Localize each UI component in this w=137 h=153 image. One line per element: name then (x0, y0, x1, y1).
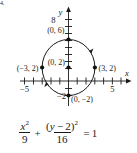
term2-minus-sign: − (57, 120, 63, 132)
term1-denominator: 9 (19, 132, 31, 145)
curve-direction-arrow-upper-icon (89, 49, 93, 54)
y-axis-label: y (58, 7, 63, 17)
point-label-0-neg2: (0, −2) (71, 95, 93, 104)
equation-plus-operator: + (33, 127, 41, 139)
y-axis-arrow-icon (66, 7, 71, 13)
x-tick-label-neg5: −5 (20, 84, 29, 94)
x-tick-label-pos5: 5 (110, 84, 114, 94)
equation-caption: x2 9 + (y − 2)2 16 = 1 (0, 118, 137, 153)
point-label-neg3-2: (−3, 2) (17, 64, 39, 73)
term2-denominator: 16 (54, 132, 71, 145)
ellipse-equation: x2 9 + (y − 2)2 16 = 1 (16, 120, 98, 145)
point-label-3-2: (3, 2) (99, 64, 117, 73)
point-right-3-2 (93, 65, 97, 69)
term2-numerator: (y − 2)2 (43, 120, 81, 132)
term2-numerator-variable: y (50, 120, 55, 132)
y-tick-label-8: 8 (51, 15, 55, 25)
point-left-neg3-2 (40, 65, 44, 69)
point-top-0-6 (66, 37, 70, 41)
coordinate-plot: y x 8 −2 −5 5 (0, 6) (0, 2) (−3, 2) (3, … (0, 2, 137, 118)
equation-term-1: x2 9 (18, 120, 32, 145)
term2-numerator-exponent: 2 (74, 119, 78, 127)
term1-numerator: x2 (18, 120, 32, 132)
equation-equals-sign: = (82, 127, 90, 139)
equation-right-hand-side: 1 (91, 127, 99, 139)
x-axis-label: x (124, 68, 129, 78)
equation-term-2: (y − 2)2 16 (43, 120, 81, 145)
curve-direction-arrow-lower-icon (44, 82, 48, 87)
x-axis-arrow-icon (126, 79, 132, 84)
point-label-0-6: (0, 6) (47, 26, 65, 35)
point-label-0-2: (0, 2) (48, 58, 66, 67)
y-tick-label-neg2: −2 (57, 91, 66, 101)
point-center-0-2 (66, 65, 70, 69)
term1-numerator-exponent: 2 (25, 119, 29, 127)
ellipse-figure: 4. (0, 0, 137, 153)
point-bottom-0-neg2 (66, 93, 70, 97)
